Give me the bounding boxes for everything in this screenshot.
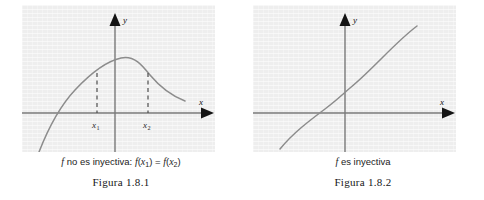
function-curve-not-injective [39,57,185,152]
plot-svg-not-injective: x y x1 x2 [22,5,215,152]
plot-panel-not-injective: x y x1 x2 [22,5,215,152]
figure-number-1-8-2: Figura 1.8.2 [242,176,484,188]
figure-1-8-2: x y f es inyectiva Figura 1.8.2 [242,0,484,200]
x-axis-label: x [439,97,444,107]
function-curve-injective [280,26,417,149]
y-axis-arrow-icon [340,13,351,26]
caption-eq-left-f: f [135,156,138,167]
caption-eq-sign: = [152,156,163,167]
y-axis-label: y [122,15,127,25]
tick-label-x1: x1 [91,120,99,131]
x-axis-arrow-icon [442,108,455,119]
caption-not-injective: f no es inyectiva: f(x1) = f(x2) [0,156,242,168]
caption-eq-right-sub: 2 [174,161,178,168]
tick-label-x2: x2 [142,120,150,131]
figure-sheet: x y x1 x2 [0,0,484,200]
plot-svg-injective: x y [253,5,456,152]
caption-eq-left-sub: 1 [145,161,149,168]
y-axis-arrow-icon [110,13,121,26]
caption-eq-right-f: f [163,156,166,167]
x-axis-label: x [198,97,203,107]
figure-number-1-8-1: Figura 1.8.1 [0,176,242,188]
caption-injective: f es inyectiva [242,156,484,167]
x-axis-arrow-icon [201,108,214,119]
caption-text: es inyectiva [338,156,390,167]
plot-panel-injective: x y [253,5,456,152]
y-axis-label: y [352,15,357,25]
figure-1-8-1: x y x1 x2 [0,0,242,200]
caption-text: no es inyectiva: [64,156,135,167]
